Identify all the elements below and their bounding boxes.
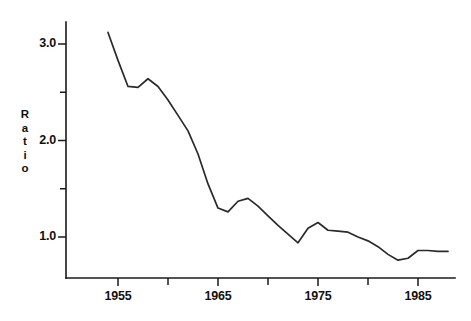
chart-plot-area [0,0,471,321]
y-tick-label: 1.0 [12,229,56,243]
data-series-group [108,32,448,260]
y-axis-title-letter: o [16,162,34,176]
y-tick-label: 2.0 [12,133,56,147]
y-axis-ticks [58,44,66,237]
x-axis-ticks [118,278,418,286]
ratio-line-chart: Ratio 3.02.01.0 1955196519751985 [0,0,471,321]
ratio-series-line [108,32,448,260]
x-tick-label: 1965 [188,289,248,303]
y-tick-label: 3.0 [12,36,56,50]
y-axis-title-letter: i [16,149,34,163]
x-tick-label: 1975 [288,289,348,303]
x-tick-label: 1955 [88,289,148,303]
x-tick-label: 1985 [388,289,448,303]
y-axis-title-letter: R [16,108,34,122]
axes-group [66,22,455,278]
